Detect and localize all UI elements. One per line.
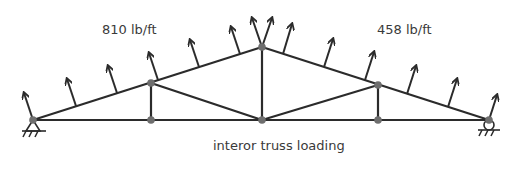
joint-d <box>374 81 382 89</box>
arrow-icon <box>67 79 76 106</box>
arrow-icon <box>24 93 33 120</box>
diagram-caption: interor truss loading <box>213 138 345 153</box>
arrow-icon <box>407 66 416 94</box>
joint-f <box>147 116 155 124</box>
truss-members <box>33 47 489 120</box>
load-label-left: 810 lb/ft <box>102 22 157 37</box>
joint-h <box>374 116 382 124</box>
joint-c <box>258 43 266 51</box>
diagonal-right <box>262 85 378 120</box>
joint-a <box>29 116 37 124</box>
joint-g <box>258 116 266 124</box>
arrow-icon <box>324 39 333 67</box>
joint-b <box>147 79 155 87</box>
arrow-icon <box>365 52 374 80</box>
arrow-icon <box>190 40 199 67</box>
arrow-icon <box>231 27 240 54</box>
arrow-icon <box>149 53 158 80</box>
arrow-icon <box>489 95 497 120</box>
arrow-icon <box>108 66 117 93</box>
arrow-icon <box>283 24 292 54</box>
diagonal-left <box>151 83 262 120</box>
arrow-icon <box>252 18 262 47</box>
arrow-icon <box>262 18 272 47</box>
joint-e <box>485 116 493 124</box>
load-label-right: 458 lb/ft <box>377 22 432 37</box>
arrow-icon <box>448 79 457 107</box>
